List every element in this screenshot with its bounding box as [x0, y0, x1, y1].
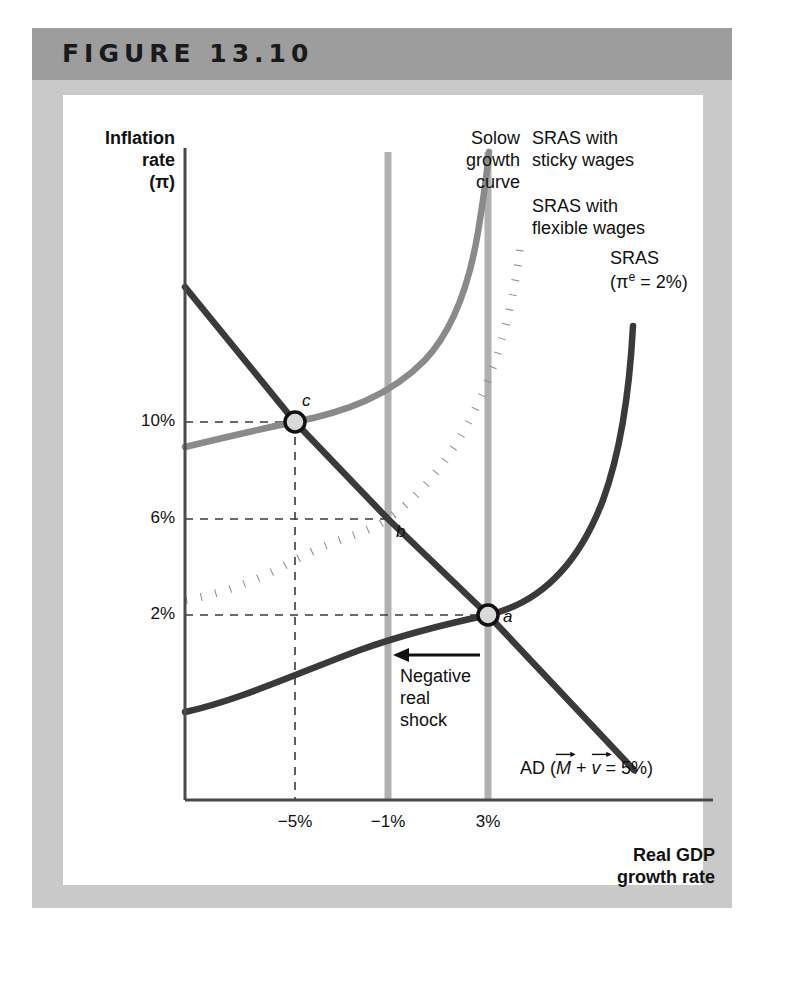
ad-equals: = 5%: [601, 758, 648, 778]
curve-label-ad: AD (M + v = 5%): [520, 758, 653, 780]
annotation-negative-real-shock: Negative real shock: [400, 666, 520, 732]
shock-line-2: real: [400, 688, 520, 710]
x-tick-minus5: −5%: [265, 812, 325, 832]
y-tick-10: 10%: [110, 411, 175, 431]
solow-label-line-3: curve: [405, 172, 520, 194]
curve-label-sras-flexible: SRAS with flexible wages: [532, 196, 722, 240]
y-axis-title-line-2: rate: [95, 150, 175, 172]
y-axis-title-line-3: (π): [95, 172, 175, 194]
arrow-over-m-icon: [555, 749, 577, 758]
guide-lines: [185, 422, 488, 800]
point-marker-a: [478, 605, 498, 625]
figure-root: FIGURE 13.10: [0, 0, 797, 1001]
sras-sticky-line-2: sticky wages: [532, 150, 712, 172]
y-axis-title-line-1: Inflation: [95, 128, 175, 150]
sras-flexible-line-2: flexible wages: [532, 218, 722, 240]
y-tick-6: 6%: [110, 508, 175, 528]
shock-line-1: Negative: [400, 666, 520, 688]
sras-expected-name: SRAS: [610, 248, 760, 270]
point-label-c: c: [302, 391, 311, 411]
solow-label-line-2: growth: [405, 150, 520, 172]
sras-expected-expression: (πe = 2%): [610, 270, 760, 294]
vector-v: v: [592, 758, 601, 780]
sras-flexible-line-1: SRAS with: [532, 196, 722, 218]
point-marker-c: [285, 412, 305, 432]
curve-solow-growth: [185, 152, 489, 447]
sras-sticky-line-1: SRAS with: [532, 128, 712, 150]
curve-label-solow-growth: Solow growth curve: [405, 128, 520, 194]
x-tick-3: 3%: [460, 812, 516, 832]
pi-symbol: π: [616, 272, 628, 292]
curve-label-sras-expected: SRAS (πe = 2%): [610, 248, 760, 294]
shock-line-3: shock: [400, 710, 520, 732]
paren-close: ): [682, 272, 688, 292]
y-tick-2: 2%: [110, 604, 175, 624]
vector-m: M: [556, 758, 571, 780]
ad-plus: +: [571, 758, 592, 778]
ad-close-paren: ): [647, 758, 653, 778]
arrow-over-v-icon: [591, 749, 613, 758]
negative-shock-arrow: [393, 648, 480, 662]
curve-sras-flexible-wages: [186, 240, 521, 600]
point-label-a: a: [503, 607, 512, 627]
solow-label-line-1: Solow: [405, 128, 520, 150]
x-axis-title-line-2: growth rate: [560, 867, 715, 889]
point-label-b: b: [396, 522, 405, 542]
x-tick-minus1: −1%: [358, 812, 418, 832]
curve-label-sras-sticky: SRAS with sticky wages: [532, 128, 712, 172]
equals-value: = 2%: [635, 272, 682, 292]
y-axis-title: Inflation rate (π): [95, 128, 175, 194]
ad-m-letter: M: [556, 758, 571, 778]
ad-v-letter: v: [592, 758, 601, 778]
x-axis-title-line-1: Real GDP: [560, 845, 715, 867]
x-axis-title: Real GDP growth rate: [560, 845, 715, 889]
ad-prefix: AD (: [520, 758, 556, 778]
